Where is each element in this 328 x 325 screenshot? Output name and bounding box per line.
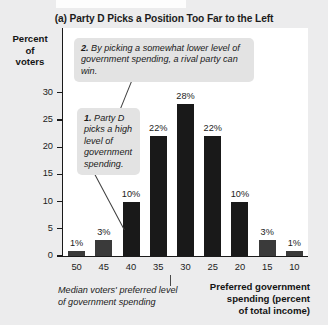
x-tick-label: 30 (174, 261, 198, 272)
y-tick-mark (57, 201, 62, 202)
bar (231, 202, 248, 256)
page-top-white-strip (56, 0, 186, 8)
y-tick-label: 15 (31, 168, 53, 178)
x-axis-line (62, 256, 308, 257)
x-axis-title-line-3: of total income) (186, 305, 310, 317)
y-axis-title-line-3: voters (2, 56, 58, 68)
y-tick-mark (57, 174, 62, 175)
x-tick-label: 40 (119, 261, 143, 272)
bar (123, 202, 140, 256)
bar-value-label: 10% (115, 189, 147, 199)
chart-title: (a) Party D Picks a Position Too Far to … (0, 13, 328, 24)
bar (259, 240, 276, 256)
y-axis-line (62, 28, 63, 257)
annotation-2-text: By picking a somewhat lower level of gov… (81, 43, 240, 76)
x-tick-label: 10 (282, 261, 306, 272)
y-tick-label: 10 (31, 196, 53, 206)
annotation-callout-1: 1. Party D picks a high level of governm… (77, 108, 140, 175)
x-tick-label: 45 (92, 261, 116, 272)
y-axis-title-line-1: Percent (2, 33, 58, 45)
y-tick-label: 5 (31, 223, 53, 233)
bar (150, 136, 167, 256)
y-tick-mark (57, 92, 62, 93)
y-axis-title: Percent of voters (2, 33, 58, 68)
bar (68, 251, 85, 256)
bar (95, 240, 112, 256)
y-tick-mark (57, 228, 62, 229)
annotation-2-number: 2. (81, 43, 89, 53)
y-tick-mark (57, 119, 62, 120)
bar (286, 251, 303, 256)
bar-value-label: 10% (224, 189, 256, 199)
bar-value-label: 1% (61, 238, 93, 248)
x-axis-title-line-2: spending (percent (186, 293, 310, 305)
x-tick-label: 20 (228, 261, 252, 272)
y-tick-label: 30 (31, 87, 53, 97)
y-axis-title-line-2: of (2, 45, 58, 57)
y-tick-label: 20 (31, 141, 53, 151)
y-tick-label: 0 (31, 250, 53, 260)
x-tick-label: 35 (146, 261, 170, 272)
bar-value-label: 22% (142, 123, 174, 133)
bar-value-label: 1% (278, 238, 310, 248)
x-axis-title-line-1: Preferred government (186, 281, 310, 293)
y-tick-mark (57, 147, 62, 148)
annotation-callout-2: 2. By picking a somewhat lower level of … (74, 38, 254, 82)
bar-value-label: 3% (88, 227, 120, 237)
median-voters-caption: Median voters' preferred level of govern… (58, 285, 180, 308)
y-tick-label: 25 (31, 114, 53, 124)
x-axis-title: Preferred government spending (percent o… (186, 281, 310, 316)
bar-value-label: 28% (170, 91, 202, 101)
x-tick-label: 25 (201, 261, 225, 272)
bar (177, 104, 194, 256)
x-tick-label: 15 (255, 261, 279, 272)
annotation-1-text: Party D picks a high level of government… (84, 113, 132, 169)
bar-value-label: 3% (251, 227, 283, 237)
bar-value-label: 22% (197, 123, 229, 133)
x-tick-label: 50 (65, 261, 89, 272)
bar (204, 136, 221, 256)
y-tick-mark (57, 255, 62, 256)
annotation-1-number: 1. (84, 113, 92, 123)
figure-panel-a: (a) Party D Picks a Position Too Far to … (0, 0, 328, 325)
